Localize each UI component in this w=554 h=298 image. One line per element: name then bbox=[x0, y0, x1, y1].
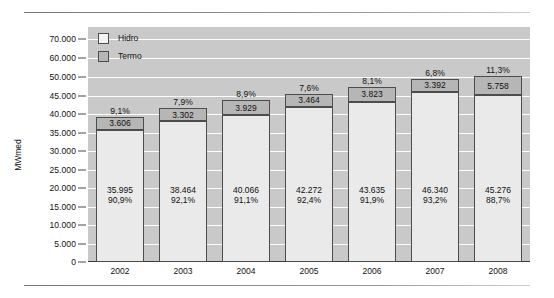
y-axis-tick-label: 70.000 bbox=[49, 34, 76, 44]
hidro-percent: 91,9% bbox=[360, 195, 384, 205]
x-axis-tick-label: 2004 bbox=[222, 266, 270, 276]
y-axis-tick-label: 10.000 bbox=[49, 220, 76, 230]
y-axis-title: MWmed bbox=[13, 125, 23, 185]
hidro-value-label: 43.63591,9% bbox=[349, 185, 395, 205]
bar-group[interactable]: 38.46492,1%3.3027,9% bbox=[159, 108, 207, 262]
y-axis-tick-mark bbox=[78, 114, 86, 115]
y-axis-tick-label: 50.000 bbox=[49, 72, 76, 82]
y-axis-tick-label: 30.000 bbox=[49, 146, 76, 156]
bar-segment-hidro[interactable]: 43.63591,9% bbox=[348, 102, 396, 262]
hidro-percent: 90,9% bbox=[108, 195, 132, 205]
hidro-value: 42.272 bbox=[296, 185, 322, 195]
y-axis-tick-mark bbox=[78, 58, 86, 59]
x-axis-tick-label: 2003 bbox=[159, 266, 207, 276]
bar-segment-termo[interactable]: 3.6069,1% bbox=[96, 117, 144, 130]
termo-percent-label: 6,8% bbox=[412, 68, 458, 78]
hidro-value: 40.066 bbox=[233, 185, 259, 195]
bar-group[interactable]: 43.63591,9%3.8238,1% bbox=[348, 87, 396, 262]
y-axis-tick-mark bbox=[78, 151, 86, 152]
hidro-value-label: 35.99590,9% bbox=[97, 185, 143, 205]
termo-percent-label: 9,1% bbox=[97, 106, 143, 116]
hidro-value: 46.340 bbox=[422, 185, 448, 195]
y-axis-tick-mark bbox=[78, 39, 86, 40]
y-axis-tick-label: 60.000 bbox=[49, 53, 76, 63]
y-axis-tick-mark bbox=[78, 206, 86, 207]
y-axis-tick-mark bbox=[78, 132, 86, 133]
hidro-value: 35.995 bbox=[107, 185, 133, 195]
y-axis-tick-label: 0 bbox=[71, 257, 76, 267]
y-axis-tick-mark bbox=[78, 262, 86, 263]
hidro-value-label: 42.27292,4% bbox=[286, 185, 332, 205]
y-axis-tick-label: 35.000 bbox=[49, 128, 76, 138]
y-axis-tick-mark bbox=[78, 188, 86, 189]
x-axis-tick-label: 2008 bbox=[474, 266, 522, 276]
termo-value-label: 3.302 bbox=[160, 110, 206, 120]
termo-value-label: 3.823 bbox=[349, 89, 395, 99]
legend-label-hidro: Hidro bbox=[118, 33, 138, 44]
bar-segment-hidro[interactable]: 42.27292,4% bbox=[285, 107, 333, 262]
hidro-value: 43.635 bbox=[359, 185, 385, 195]
termo-percent-label: 8,9% bbox=[223, 89, 269, 99]
bar-segment-hidro[interactable]: 45.27688,7% bbox=[474, 95, 522, 262]
termo-percent-label: 8,1% bbox=[349, 76, 395, 86]
y-axis-tick-mark bbox=[78, 225, 86, 226]
bar-segment-termo[interactable]: 3.4647,6% bbox=[285, 94, 333, 107]
y-axis-tick-label: 40.000 bbox=[49, 109, 76, 119]
y-axis-tick-label: 15.000 bbox=[49, 202, 76, 212]
bar-segment-termo[interactable]: 3.3926,8% bbox=[411, 79, 459, 92]
bar-group[interactable]: 35.99590,9%3.6069,1% bbox=[96, 116, 144, 262]
bar-segment-termo[interactable]: 3.8238,1% bbox=[348, 87, 396, 101]
x-axis-tick-label: 2002 bbox=[96, 266, 144, 276]
termo-percent-label: 7,9% bbox=[160, 97, 206, 107]
termo-swatch-icon bbox=[98, 51, 109, 62]
chart-figure: MWmed 05.00010.00015.00020.00025.00030.0… bbox=[0, 0, 554, 298]
hidro-percent: 88,7% bbox=[486, 195, 510, 205]
y-axis-tick-mark bbox=[78, 243, 86, 244]
termo-percent-label: 11,3% bbox=[475, 65, 521, 75]
termo-value-label: 3.929 bbox=[223, 103, 269, 113]
termo-value-label: 5.758 bbox=[475, 81, 521, 91]
hidro-value-label: 45.27688,7% bbox=[475, 185, 521, 205]
y-axis-tick-mark bbox=[78, 77, 86, 78]
gridline bbox=[88, 39, 530, 40]
x-axis-tick-label: 2007 bbox=[411, 266, 459, 276]
gridline bbox=[88, 58, 530, 59]
bottom-divider-rule bbox=[24, 285, 530, 286]
legend-item-hidro: Hidro bbox=[98, 31, 142, 46]
hidro-value-label: 40.06691,1% bbox=[223, 185, 269, 205]
y-axis: MWmed 05.00010.00015.00020.00025.00030.0… bbox=[0, 0, 88, 298]
top-divider-rule bbox=[24, 12, 530, 13]
hidro-percent: 92,1% bbox=[171, 195, 195, 205]
y-axis-tick-mark bbox=[78, 169, 86, 170]
termo-value-label: 3.392 bbox=[412, 80, 458, 90]
legend-label-termo: Termo bbox=[118, 51, 142, 62]
y-axis-tick-mark bbox=[78, 95, 86, 96]
bar-segment-hidro[interactable]: 35.99590,9% bbox=[96, 130, 144, 262]
bar-segment-hidro[interactable]: 46.34093,2% bbox=[411, 92, 459, 262]
termo-value-label: 3.464 bbox=[286, 95, 332, 105]
gridline bbox=[88, 77, 530, 78]
hidro-value-label: 38.46492,1% bbox=[160, 185, 206, 205]
hidro-value: 38.464 bbox=[170, 185, 196, 195]
bar-segment-termo[interactable]: 3.9298,9% bbox=[222, 100, 270, 115]
hidro-percent: 93,2% bbox=[423, 195, 447, 205]
chart-legend: Hidro Termo bbox=[98, 31, 142, 67]
bar-segment-hidro[interactable]: 40.06691,1% bbox=[222, 115, 270, 262]
bar-segment-termo[interactable]: 5.75811,3% bbox=[474, 76, 522, 95]
bar-group[interactable]: 40.06691,1%3.9298,9% bbox=[222, 100, 270, 262]
y-axis-tick-label: 45.000 bbox=[49, 91, 76, 101]
bar-segment-termo[interactable]: 3.3027,9% bbox=[159, 108, 207, 120]
x-axis-tick-label: 2006 bbox=[348, 266, 396, 276]
termo-percent-label: 7,6% bbox=[286, 83, 332, 93]
termo-value-label: 3.606 bbox=[97, 118, 143, 128]
hidro-percent: 92,4% bbox=[297, 195, 321, 205]
bar-segment-hidro[interactable]: 38.46492,1% bbox=[159, 121, 207, 262]
legend-item-termo: Termo bbox=[98, 49, 142, 64]
bar-group[interactable]: 45.27688,7%5.75811,3% bbox=[474, 76, 522, 262]
y-axis-tick-label: 25.000 bbox=[49, 165, 76, 175]
bar-group[interactable]: 46.34093,2%3.3926,8% bbox=[411, 79, 459, 262]
y-axis-tick-label: 5.000 bbox=[54, 239, 76, 249]
bar-group[interactable]: 42.27292,4%3.4647,6% bbox=[285, 94, 333, 262]
hidro-value: 45.276 bbox=[485, 185, 511, 195]
hidro-percent: 91,1% bbox=[234, 195, 258, 205]
